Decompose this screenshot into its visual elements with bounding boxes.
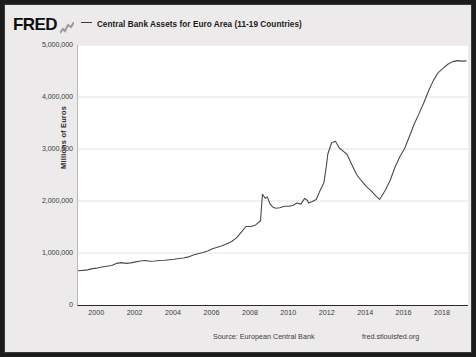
y-tick-label: 3,000,000 [7, 144, 73, 153]
fred-chart-screenshot: FRED Central Bank Assets for Euro Area (… [0, 0, 476, 357]
y-tick-label: 2,000,000 [7, 196, 73, 205]
chart-footer: Source: European Central Bank fred.stlou… [13, 332, 463, 343]
y-axis-ticks: 01,000,0002,000,0003,000,0004,000,0005,0… [5, 45, 73, 305]
y-tick-label: 5,000,000 [7, 40, 73, 49]
x-tick-label: 2010 [268, 308, 308, 317]
x-tick-label: 2018 [422, 308, 462, 317]
fred-chart-glyph-icon [60, 20, 74, 32]
chart-frame: FRED Central Bank Assets for Euro Area (… [4, 4, 472, 353]
x-tick-label: 2012 [307, 308, 347, 317]
series-paths [78, 61, 466, 271]
series-line [78, 61, 466, 271]
x-tick-label: 2016 [384, 308, 424, 317]
x-tick-label: 2008 [230, 308, 270, 317]
x-tick-label: 2000 [76, 308, 116, 317]
x-tick-label: 2004 [153, 308, 193, 317]
gridlines [78, 45, 468, 253]
x-axis-ticks: 2000200220042006200820102012201420162018 [77, 308, 467, 322]
x-tick-label: 2002 [115, 308, 155, 317]
series-legend-label: Central Bank Assets for Euro Area (11-19… [97, 20, 302, 29]
y-tick-label: 4,000,000 [7, 92, 73, 101]
plot-area [77, 45, 468, 306]
x-tick-label: 2006 [191, 308, 231, 317]
x-tick-label: 2014 [345, 308, 385, 317]
fred-url-label[interactable]: fred.stlouisfed.org [362, 332, 419, 341]
chart-canvas [78, 45, 468, 305]
y-tick-label: 1,000,000 [7, 248, 73, 257]
y-tick-label: 0 [7, 300, 73, 309]
series-legend-dash-icon [81, 22, 92, 23]
chart-header: FRED Central Bank Assets for Euro Area (… [13, 13, 463, 35]
source-label: Source: European Central Bank [213, 332, 315, 341]
fred-logo[interactable]: FRED [13, 16, 57, 33]
